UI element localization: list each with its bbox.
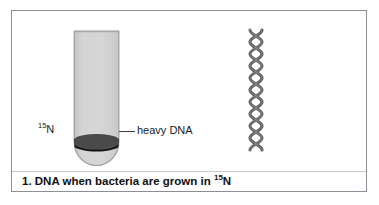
dna-strand-a-highlight [250,30,262,150]
figure-caption: 1. DNA when bacteria are grown in 15N [12,176,231,188]
dna-helix-graphic [240,28,272,156]
dna-double-helix [240,28,272,156]
heavy-dna-leader-line [119,131,135,132]
caption-prefix: 1. DNA when bacteria are grown in [22,175,214,187]
isotope-element: N [46,123,54,135]
diagram-area: 15N heavy DNA [12,11,366,171]
caption-bar: 1. DNA when bacteria are grown in 15N [12,172,366,191]
test-tube [73,30,120,166]
heavy-dna-band [73,134,120,151]
figure-panel: 15N heavy DNA 1. DNA when bacteria a [11,10,367,192]
heavy-dna-label: heavy DNA [137,125,193,136]
test-tube-graphic [73,30,120,166]
caption-isotope-superscript: 15 [214,173,223,182]
figure-root: 15N heavy DNA 1. DNA when bacteria a [0,0,379,205]
caption-isotope-element: N [223,175,231,187]
isotope-label-n15: 15N [38,124,54,135]
